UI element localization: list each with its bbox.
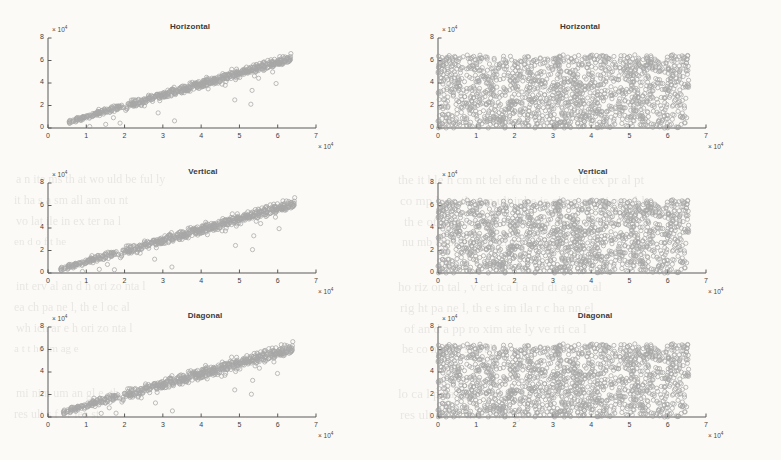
x-tick-label: 0 <box>428 421 448 428</box>
x-tick-label: 3 <box>543 421 563 428</box>
x-tick-label: 5 <box>619 421 639 428</box>
scatter-points <box>436 342 691 419</box>
y-tick-label: 0 <box>416 412 434 419</box>
y-tick-label: 4 <box>416 367 434 374</box>
chart-panel-right-diagonal: Diagonal× 104× 1040246801234567 <box>0 0 781 460</box>
y-tick-label: 2 <box>416 390 434 397</box>
y-tick-label: 8 <box>416 322 434 329</box>
y-tick-label: 6 <box>416 345 434 352</box>
x-tick-label: 6 <box>658 421 678 428</box>
x-tick-label: 1 <box>466 421 486 428</box>
chart-canvas-right-diagonal <box>0 0 781 460</box>
x-tick-label: 4 <box>581 421 601 428</box>
x-tick-label: 2 <box>505 421 525 428</box>
x-tick-label: 7 <box>696 421 716 428</box>
